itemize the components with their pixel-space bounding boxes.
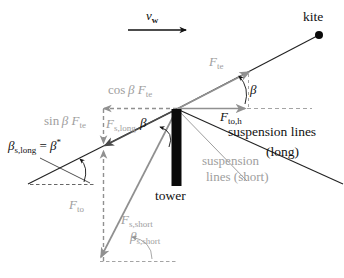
suspension-long-force-label: Fs,long — [106, 117, 136, 133]
tower-bar — [172, 109, 182, 186]
tower-label: tower — [155, 189, 186, 203]
cos-component-label: cos β Fte — [108, 83, 152, 99]
beta-s-long-equation-label: βs,long = β* — [8, 138, 61, 155]
suspension-long-label-line2: (long) — [266, 145, 299, 159]
suspension-long-label-line1: suspension lines — [228, 125, 316, 139]
suspension-short-label-line1: suspension — [202, 154, 259, 167]
beta-arc-right — [239, 76, 247, 104]
tether-force-label: Fte — [209, 55, 223, 71]
beta-label-right: β — [250, 83, 256, 96]
beta-label-center: β — [140, 116, 146, 129]
kite-dot — [315, 31, 323, 39]
wind-speed-label: vw — [146, 9, 158, 25]
suspension-short-label-line2: lines (short) — [206, 170, 268, 183]
tether-force-arrow — [177, 72, 249, 109]
beta-s-short-label: βs,short — [130, 230, 160, 246]
beta-arc-center — [160, 127, 171, 147]
force-diagram: kite vw Fte β Fto,h suspension lines (lo… — [0, 0, 344, 278]
sin-component-label: sin β Fte — [44, 114, 86, 130]
kite-label: kite — [303, 10, 323, 24]
suspension-short-force-label: Fs,short — [121, 213, 153, 229]
tower-force-label: Fto — [69, 198, 84, 214]
